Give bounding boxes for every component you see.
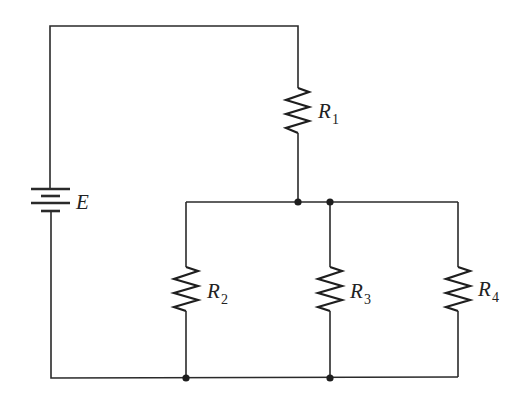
resistor-r4	[446, 267, 470, 311]
junction-dot	[182, 374, 189, 381]
label-r3: R	[349, 279, 363, 303]
resistor-r2	[174, 267, 198, 311]
junction-dot	[326, 374, 333, 381]
wire-bottom	[51, 212, 458, 378]
label-r2: R	[206, 279, 220, 303]
junction-dot	[294, 198, 301, 205]
label-e: E	[75, 190, 89, 214]
label-r1: R	[317, 99, 331, 123]
wire-top-left	[50, 26, 298, 189]
battery-icon	[31, 189, 70, 211]
circuit-diagram: E R 1 R 2 R 3 R 4	[0, 0, 531, 404]
resistor-r3	[318, 267, 342, 311]
junction-dot	[326, 198, 333, 205]
resistor-r1	[286, 88, 309, 133]
label-r2-sub: 2	[221, 292, 228, 307]
label-r1-sub: 1	[332, 112, 339, 127]
label-r4-sub: 4	[492, 290, 499, 305]
label-r4: R	[477, 277, 491, 301]
label-r3-sub: 3	[364, 292, 371, 307]
